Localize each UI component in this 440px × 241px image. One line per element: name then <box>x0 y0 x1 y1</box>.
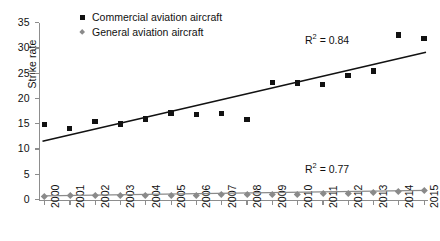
legend-label-general: General aviation aircraft <box>92 25 203 40</box>
data-point-general <box>320 190 326 196</box>
data-point-general <box>168 192 174 198</box>
y-axis-tick <box>35 174 39 175</box>
data-point-general <box>395 188 401 194</box>
data-point-commercial <box>67 126 72 131</box>
square-marker-icon <box>80 15 85 20</box>
x-axis-tick <box>44 201 45 205</box>
x-axis-tick <box>69 201 70 205</box>
x-axis-tick-label: 2008 <box>252 162 263 208</box>
diamond-marker-icon <box>79 29 85 35</box>
data-point-commercial <box>118 121 123 126</box>
x-axis-tick <box>221 201 222 205</box>
data-point-general <box>142 192 148 198</box>
annotation-r2-commercial: R2 = 0.84 <box>305 32 349 46</box>
y-axis-tick-label: 25 <box>6 68 30 78</box>
x-axis-tick <box>196 201 197 205</box>
data-point-commercial <box>143 116 148 121</box>
data-point-general <box>244 191 250 197</box>
data-point-general <box>218 191 224 197</box>
x-axis-tick <box>246 201 247 205</box>
x-axis-tick-label: 2003 <box>125 162 136 208</box>
data-point-general <box>117 192 123 198</box>
y-axis-tick <box>35 148 39 149</box>
x-axis-tick <box>398 201 399 205</box>
x-axis-tick <box>373 201 374 205</box>
data-point-general <box>345 190 351 196</box>
x-axis-tick <box>120 201 121 205</box>
data-point-commercial <box>194 112 199 117</box>
x-axis-tick <box>272 201 273 205</box>
x-axis-tick <box>297 201 298 205</box>
r2-general-prefix: R <box>305 163 313 175</box>
x-axis-tick-label: 2001 <box>75 162 86 208</box>
y-axis-spine <box>39 23 40 201</box>
r2-commercial-exponent: 2 <box>313 32 317 41</box>
y-axis-tick-label: 5 <box>6 169 30 179</box>
data-point-general <box>370 189 376 195</box>
x-axis-tick-label: 2005 <box>176 162 187 208</box>
data-point-commercial <box>295 80 300 85</box>
x-axis-tick-label: 2013 <box>378 162 389 208</box>
data-point-commercial <box>270 80 275 85</box>
data-point-general <box>193 192 199 198</box>
y-axis-tick-label: 0 <box>6 194 30 204</box>
data-point-commercial <box>396 32 401 37</box>
r2-general-value: = 0.77 <box>320 163 350 175</box>
x-axis-tick-label: 2015 <box>429 162 440 208</box>
data-point-commercial <box>92 119 97 124</box>
y-axis-tick <box>35 199 39 200</box>
y-axis-tick <box>35 73 39 74</box>
data-point-commercial <box>219 111 224 116</box>
x-axis-tick <box>322 201 323 205</box>
annotation-r2-general: R2 = 0.77 <box>305 161 349 175</box>
r2-general-exponent: 2 <box>313 161 317 170</box>
data-point-general <box>92 192 98 198</box>
y-axis-tick-label: 15 <box>6 118 30 128</box>
y-axis-tick-label: 35 <box>6 17 30 27</box>
data-point-commercial <box>168 110 173 115</box>
x-axis-tick <box>348 201 349 205</box>
x-axis-tick-label: 2006 <box>201 162 212 208</box>
data-point-general <box>67 192 73 198</box>
x-axis-tick-label: 2009 <box>277 162 288 208</box>
r2-commercial-prefix: R <box>305 34 313 46</box>
x-axis-tick <box>145 201 146 205</box>
y-axis-tick-label: 20 <box>6 93 30 103</box>
data-point-commercial <box>42 122 47 127</box>
x-axis-tick-label: 2007 <box>227 162 238 208</box>
data-point-commercial <box>320 82 325 87</box>
x-axis-tick-label: 2000 <box>50 162 61 208</box>
data-point-general <box>269 191 275 197</box>
trendline-commercial <box>43 52 427 141</box>
x-axis-tick-label: 2012 <box>353 162 364 208</box>
y-axis-tick-label: 30 <box>6 42 30 52</box>
data-point-commercial <box>421 36 426 41</box>
data-point-general <box>294 191 300 197</box>
data-point-general <box>41 193 47 199</box>
x-axis-tick-label: 2014 <box>404 162 415 208</box>
y-axis-tick-label: 10 <box>6 143 30 153</box>
x-axis-tick <box>424 201 425 205</box>
y-axis-tick <box>35 123 39 124</box>
data-point-commercial <box>371 68 376 73</box>
r2-commercial-value: = 0.84 <box>320 34 350 46</box>
data-point-commercial <box>244 117 249 122</box>
legend-label-commercial: Commercial aviation aircraft <box>92 10 222 25</box>
y-axis-tick <box>35 98 39 99</box>
x-axis-tick-label: 2004 <box>151 162 162 208</box>
data-point-commercial <box>345 73 350 78</box>
x-axis-tick <box>171 201 172 205</box>
x-axis-tick <box>95 201 96 205</box>
x-axis-tick-label: 2002 <box>100 162 111 208</box>
data-point-general <box>421 187 427 193</box>
y-axis-tick <box>35 22 39 23</box>
y-axis-tick <box>35 47 39 48</box>
